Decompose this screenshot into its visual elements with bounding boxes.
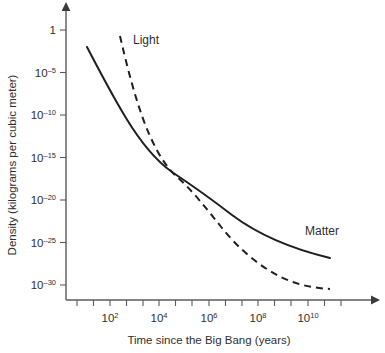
y-axis-title: Density (kilograms per cubic meter): [6, 74, 18, 255]
x-tick-label-1e10: 1010: [297, 311, 318, 324]
y-tick-label-1e-15: 10–15: [31, 151, 56, 164]
y-axis-ticks: 1 10–5 10–10 10–15 10–20 10–25 10–30: [31, 24, 66, 291]
x-tick-label-1e2: 102: [102, 311, 119, 324]
x-axis-arrowhead: [371, 296, 380, 305]
y-tick-label-1e-25: 10–25: [31, 236, 56, 249]
y-axis-arrowhead: [62, 2, 71, 11]
x-tick-label-1e8: 108: [250, 311, 267, 324]
y-tick-label-1: 1: [50, 24, 56, 36]
chart-figure: 1 10–5 10–10 10–15 10–20 10–25 10–30: [0, 0, 385, 353]
x-axis-ticks: 102 104 106 108 1010: [77, 300, 341, 324]
x-tick-label-1e4: 104: [151, 311, 168, 324]
series-label-matter: Matter: [305, 224, 339, 238]
density-vs-time-chart: 1 10–5 10–10 10–15 10–20 10–25 10–30: [0, 0, 385, 353]
y-tick-label-1e-30: 10–30: [31, 278, 56, 291]
x-tick-label-1e6: 106: [201, 311, 218, 324]
data-curves: [87, 36, 330, 289]
x-axis-title: Time since the Big Bang (years): [127, 334, 290, 346]
y-tick-label-1e-20: 10–20: [31, 193, 56, 206]
y-tick-label-1e-5: 10–5: [35, 66, 56, 79]
light-curve: [120, 36, 330, 289]
axes-group: [62, 2, 380, 305]
y-tick-label-1e-10: 10–10: [31, 108, 56, 121]
matter-curve: [87, 47, 330, 258]
series-label-light: Light: [133, 33, 160, 47]
